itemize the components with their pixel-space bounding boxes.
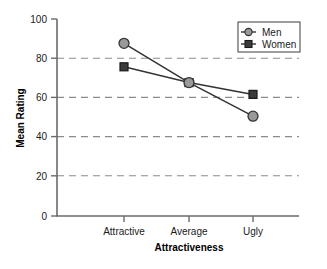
chart-container: 100 80 60 40 20 0 Attractive Average Ugl… bbox=[0, 0, 327, 269]
data-point-men-attractive bbox=[119, 38, 129, 48]
line-chart: 100 80 60 40 20 0 Attractive Average Ugl… bbox=[0, 0, 327, 269]
legend-marker-circle-icon bbox=[245, 28, 252, 35]
legend-item-men[interactable]: Men bbox=[241, 27, 281, 38]
y-tick-label-40: 40 bbox=[36, 131, 48, 142]
x-axis-title: Attractiveness bbox=[155, 242, 224, 253]
y-tick-label-100: 100 bbox=[30, 14, 47, 25]
data-point-women-ugly bbox=[249, 90, 257, 98]
y-tick-label-60: 60 bbox=[36, 92, 48, 103]
y-axis-ticks bbox=[51, 19, 57, 216]
y-tick-label-0: 0 bbox=[41, 211, 47, 222]
x-tick-label-attractive: Attractive bbox=[103, 226, 145, 237]
legend-item-women[interactable]: Women bbox=[241, 39, 296, 50]
data-point-men-average bbox=[184, 78, 194, 88]
x-axis-ticks bbox=[124, 216, 253, 222]
x-tick-label-ugly: Ugly bbox=[243, 226, 263, 237]
legend-label-women: Women bbox=[262, 39, 296, 50]
y-tick-label-80: 80 bbox=[36, 53, 48, 64]
y-axis-title: Mean Rating bbox=[15, 88, 26, 147]
data-point-men-ugly bbox=[248, 111, 258, 121]
y-tick-label-20: 20 bbox=[36, 171, 48, 182]
legend-marker-square-icon bbox=[245, 41, 252, 48]
data-point-women-attractive bbox=[120, 63, 128, 71]
legend: Men Women bbox=[238, 22, 300, 52]
x-tick-label-average: Average bbox=[170, 226, 208, 237]
legend-label-men: Men bbox=[262, 27, 281, 38]
